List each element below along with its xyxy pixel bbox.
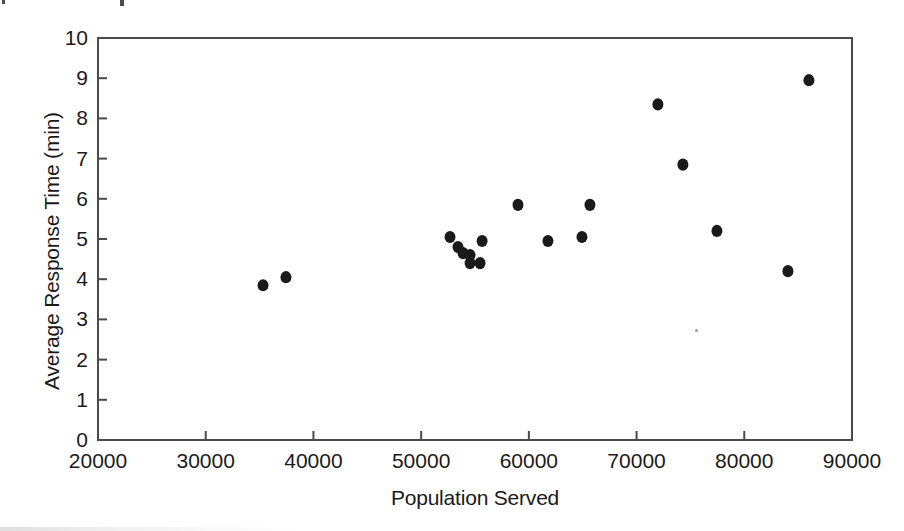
data-point xyxy=(445,231,456,243)
data-point xyxy=(280,271,291,283)
scan-bottom-edge-artifact xyxy=(0,527,300,531)
data-point xyxy=(711,225,722,237)
data-point xyxy=(477,235,488,247)
y-axis-ticks xyxy=(98,78,107,400)
data-point xyxy=(542,235,553,247)
scatter-plot-figure: Average Response Time (min) Population S… xyxy=(0,0,904,531)
data-point-group xyxy=(258,74,815,291)
data-point xyxy=(677,159,688,171)
data-point xyxy=(512,199,523,211)
data-point xyxy=(258,279,269,291)
plot-canvas xyxy=(0,0,904,531)
data-point xyxy=(803,74,814,86)
data-point xyxy=(584,199,595,211)
axis-frame xyxy=(98,38,852,440)
data-point xyxy=(782,265,793,277)
scan-speck-artifact xyxy=(695,329,698,332)
x-axis-ticks xyxy=(206,431,745,440)
data-point xyxy=(576,231,587,243)
data-point xyxy=(465,257,476,269)
data-point xyxy=(475,257,486,269)
data-point xyxy=(652,98,663,110)
